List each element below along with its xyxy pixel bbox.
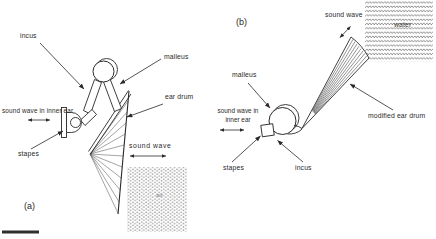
stapes-hole [71,118,81,128]
stapes-square [261,124,274,137]
ear-drum-fan-lines [90,101,128,214]
panel-a-tag: (a) [24,201,35,211]
label-ear-drum-a: ear drum [165,93,193,101]
label-sound-wave-a: sound wave [129,142,171,150]
malleus-pointer-arrow-b [248,83,270,108]
malleus-handle [103,78,122,112]
label-stapes-b: stapes [223,164,244,172]
modified-ear-drum-pointer-arrow [350,84,393,110]
label-malleus-b: malleus [232,71,256,79]
stapes-pointer-arrow-b [232,136,261,162]
sound-wave-arrow-b [340,27,351,38]
water-texture [365,1,433,62]
label-stapes-a: stapes [18,150,39,158]
label-malleus-a: malleus [164,53,188,61]
malleus-pointer-arrow [120,59,161,84]
label-sound-wave-inner-ear-a: sound wave in inner ear [2,107,73,115]
ear-drum-pointer-arrow [127,104,163,117]
label-air: air [156,191,163,199]
air-texture [127,167,187,232]
incus-pointer-arrow [40,43,84,89]
label-sound-wave-b: sound wave [325,11,363,19]
label-incus-a: incus [20,32,37,40]
ear-mechanics-diagram: incus malleus ear drum sound wave in inn… [0,0,436,239]
label-modified-ear-drum: modified ear drum [368,112,425,120]
malleus-head [93,61,114,82]
label-sound-wave-inner-ear-b: sound wave in inner ear [214,107,262,124]
incus-pointer-arrow-b [278,141,304,163]
scan-artifact-bar [2,231,39,234]
incus-bone [84,80,102,115]
label-sound-wave-inner-ear-b-line2: inner ear [214,116,262,125]
label-incus-b: incus [295,164,312,172]
label-sound-wave-inner-ear-b-line1: sound wave in [214,107,262,116]
panel-b-tag: (b) [236,17,247,27]
label-water: water [394,21,411,29]
stapes-pointer-arrow [31,131,63,149]
